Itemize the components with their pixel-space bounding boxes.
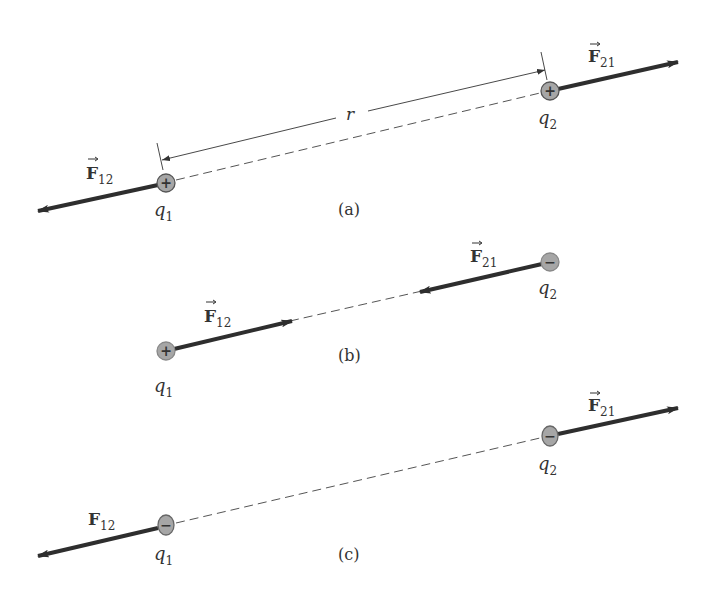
separation-dashed-line <box>290 291 422 321</box>
coulomb-force-diagram: r + + q1 q2 F12 <box>0 0 715 598</box>
panel-label-b: (b) <box>338 346 361 365</box>
charge-sign: + <box>544 83 556 99</box>
charge-q1: + <box>157 174 175 192</box>
panel-a: r + + q1 q2 F12 <box>38 42 678 224</box>
f21-label: F21 <box>588 42 615 70</box>
charge-sign: − <box>544 428 556 444</box>
svg-text:F21: F21 <box>588 395 615 419</box>
panel-label-a: (a) <box>338 200 360 219</box>
f21-label: F21 <box>470 241 497 270</box>
q2-label: q2 <box>538 453 557 478</box>
separation-dashed-line <box>176 438 540 523</box>
svg-text:F12: F12 <box>88 509 115 533</box>
force-arrow-f12 <box>38 528 158 556</box>
f12-label: F12 <box>88 509 115 533</box>
panel-label-c: (c) <box>338 545 359 564</box>
charge-sign: + <box>160 343 172 359</box>
svg-text:F21: F21 <box>470 246 497 270</box>
charge-sign: − <box>160 517 172 533</box>
f12-label: F12 <box>86 157 113 187</box>
force-arrow-f12 <box>174 321 292 349</box>
q1-label: q1 <box>154 375 173 400</box>
svg-text:F12: F12 <box>204 306 231 330</box>
f12-label: F12 <box>204 300 231 330</box>
charge-q1: + <box>157 342 175 360</box>
charge-q2: + <box>541 82 559 100</box>
f21-label: F21 <box>588 391 615 419</box>
q1-label: q1 <box>154 199 173 224</box>
q1-label: q1 <box>154 543 173 568</box>
charge-sign: + <box>160 175 172 191</box>
r-tick-left <box>157 143 163 170</box>
charge-q2: − <box>541 253 559 271</box>
charge-q1: − <box>158 515 174 535</box>
svg-text:F12: F12 <box>86 163 113 187</box>
force-arrow-f21 <box>558 408 678 434</box>
r-dimension-line-right <box>368 70 545 111</box>
force-arrow-f21 <box>558 62 678 89</box>
q2-label: q2 <box>538 277 557 302</box>
svg-text:F21: F21 <box>588 46 615 70</box>
panel-b: + − q1 q2 F12 F21 (b) <box>154 241 559 400</box>
r-dimension-line-left <box>162 118 336 160</box>
panel-c: − − q1 q2 F12 F21 (c) <box>38 391 678 568</box>
charge-q2: − <box>542 426 558 446</box>
force-arrow-f21 <box>420 264 542 292</box>
q2-label: q2 <box>538 107 557 132</box>
charge-sign: − <box>544 254 556 270</box>
separation-dashed-line <box>176 93 540 180</box>
distance-label: r <box>346 104 355 124</box>
r-tick-right <box>541 52 547 80</box>
force-arrow-f12 <box>38 185 158 211</box>
